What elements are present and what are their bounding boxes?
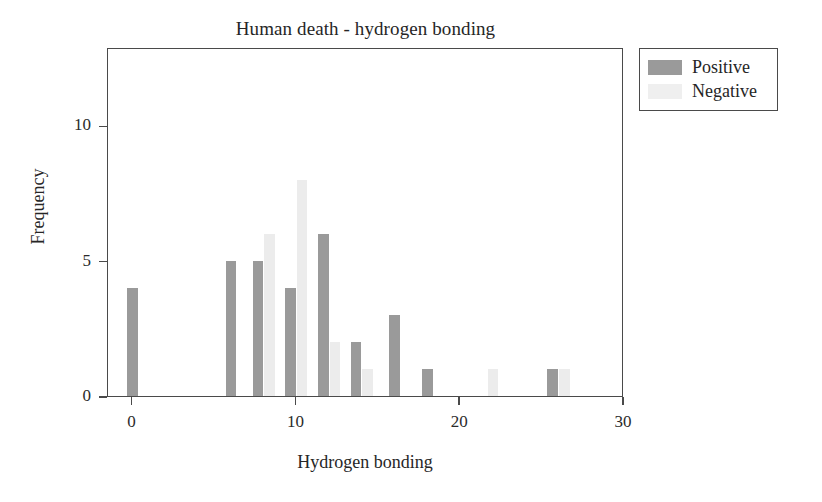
bar-positive-x0 [127, 288, 138, 396]
bar-positive-x14 [351, 342, 362, 396]
y-axis-label: Frequency [28, 147, 49, 267]
bar-negative-x12 [330, 342, 341, 396]
bar-positive-x18 [422, 369, 433, 396]
bar-negative-x26 [559, 369, 570, 396]
y-tick-label-5: 5 [55, 251, 91, 271]
y-tick-label-0: 0 [55, 386, 91, 406]
y-tick-10 [99, 126, 107, 128]
x-tick-30 [622, 397, 624, 405]
bar-positive-x26 [547, 369, 558, 396]
chart-figure: Human death - hydrogen bonding 0510 0102… [0, 0, 822, 502]
bar-negative-x10 [297, 180, 308, 396]
x-tick-20 [458, 397, 460, 405]
legend-label-negative: Negative [692, 81, 757, 102]
bar-positive-x6 [226, 261, 237, 396]
bar-negative-x22 [488, 369, 499, 396]
bar-negative-x14 [362, 369, 373, 396]
legend-item-negative[interactable]: Negative [648, 79, 769, 103]
legend-item-positive[interactable]: Positive [648, 55, 769, 79]
chart-title: Human death - hydrogen bonding [107, 18, 624, 40]
bar-negative-x8 [264, 234, 275, 396]
bar-positive-x12 [318, 234, 329, 396]
x-tick-label-0: 0 [112, 412, 152, 432]
x-tick-10 [295, 397, 297, 405]
bar-positive-x16 [389, 315, 400, 396]
legend-swatch-negative [648, 84, 682, 99]
bars-layer [108, 49, 622, 396]
bar-positive-x10 [285, 288, 296, 396]
x-tick-0 [131, 397, 133, 405]
y-tick-0 [99, 396, 107, 398]
legend-swatch-positive [648, 60, 682, 75]
chart-legend: PositiveNegative [639, 48, 778, 111]
x-tick-label-20: 20 [439, 412, 479, 432]
bar-positive-x8 [253, 261, 264, 396]
legend-label-positive: Positive [692, 57, 750, 78]
x-tick-label-30: 30 [603, 412, 643, 432]
x-axis-label: Hydrogen bonding [107, 452, 623, 473]
y-tick-label-10: 10 [55, 115, 91, 135]
y-tick-5 [99, 261, 107, 263]
x-tick-label-10: 10 [275, 412, 315, 432]
plot-area [107, 48, 623, 397]
